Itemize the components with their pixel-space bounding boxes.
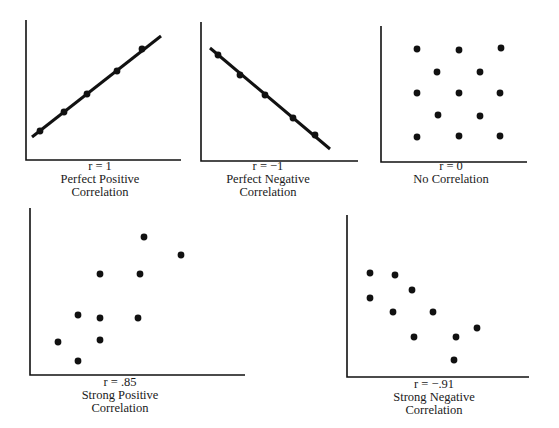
data-point <box>497 90 504 97</box>
caption-perfect-negative: r = −1 Perfect Negative Correlation <box>198 160 338 199</box>
data-point <box>97 315 104 322</box>
data-point <box>139 46 146 53</box>
caption-line: Correlation <box>50 402 190 415</box>
data-point <box>411 334 418 341</box>
data-point <box>392 272 399 279</box>
caption-line: Correlation <box>198 186 338 199</box>
data-point <box>75 358 82 365</box>
data-point <box>497 133 504 140</box>
data-point <box>435 112 442 119</box>
caption-strong-negative: r = −.91 Strong Negative Correlation <box>364 378 504 417</box>
caption-line: No Correlation <box>381 173 521 186</box>
data-point <box>414 134 421 141</box>
data-point <box>477 69 484 76</box>
data-point <box>55 339 62 346</box>
plot-perfect-negative <box>201 22 358 161</box>
plot-strong-positive <box>30 208 245 375</box>
data-point <box>456 90 463 97</box>
plot-perfect-positive <box>26 20 181 160</box>
caption-line: Correlation <box>30 186 170 199</box>
data-point <box>312 132 319 139</box>
data-point <box>498 45 505 52</box>
correlation-plots <box>0 0 559 428</box>
data-point <box>367 270 374 277</box>
data-point <box>453 334 460 341</box>
data-point <box>84 91 91 98</box>
data-point <box>456 133 463 140</box>
data-point <box>430 309 437 316</box>
data-point <box>237 72 244 79</box>
data-point <box>97 271 104 278</box>
caption-strong-positive: r = .85 Strong Positive Correlation <box>50 376 190 415</box>
data-point <box>477 113 484 120</box>
data-point <box>37 128 44 135</box>
data-point <box>137 271 144 278</box>
data-point <box>474 325 481 332</box>
data-point <box>141 234 148 241</box>
axes <box>381 26 527 162</box>
data-point <box>135 315 142 322</box>
data-point <box>75 312 82 319</box>
caption-line: Correlation <box>364 404 504 417</box>
data-point <box>434 69 441 76</box>
data-point <box>114 68 121 75</box>
data-point <box>290 115 297 122</box>
data-point <box>451 357 458 364</box>
data-point <box>390 309 397 316</box>
axes <box>26 20 181 160</box>
data-point <box>367 295 374 302</box>
axes <box>347 215 529 377</box>
data-point <box>178 252 185 259</box>
data-point <box>414 90 421 97</box>
data-point <box>61 109 68 116</box>
data-point <box>414 46 421 53</box>
plot-no-correlation <box>381 26 527 162</box>
caption-perfect-positive: r = 1 Perfect Positive Correlation <box>30 160 170 199</box>
caption-no-correlation: r = 0 No Correlation <box>381 160 521 186</box>
data-point <box>409 287 416 294</box>
data-point <box>97 337 104 344</box>
data-point <box>456 47 463 54</box>
axes <box>201 22 358 161</box>
axes <box>30 208 245 375</box>
plot-strong-negative <box>347 215 529 377</box>
data-point <box>215 52 222 59</box>
data-point <box>262 92 269 99</box>
